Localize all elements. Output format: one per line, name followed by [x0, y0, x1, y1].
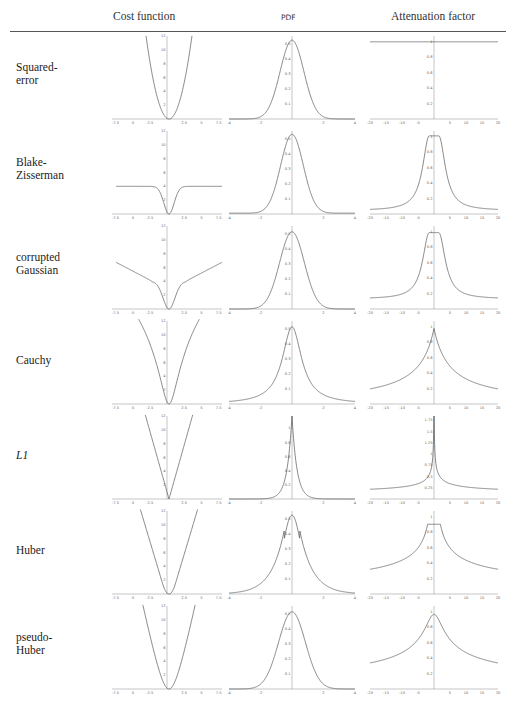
y-tick-label: 0.3 — [285, 167, 291, 171]
x-tick-label: 5 — [200, 596, 202, 600]
x-tick-label: -2 — [259, 216, 263, 220]
y-tick-label: 12 — [161, 414, 166, 418]
x-tick-label: 7.5 — [216, 596, 222, 600]
y-tick-label: 1 — [430, 452, 432, 456]
y-tick-label: 6 — [163, 551, 166, 555]
y-tick-label: 0.2 — [285, 277, 291, 281]
x-tick-label: 7.5 — [216, 406, 222, 410]
y-tick-label: 0.6 — [285, 455, 291, 459]
cost-curve — [146, 36, 192, 119]
x-tick-label: 2 — [322, 501, 324, 505]
cost-curve — [140, 509, 197, 594]
y-tick-label: 0.4 — [427, 656, 433, 660]
cost-function-plot: -7.5-5-2.52.557.524681012 — [108, 33, 228, 128]
x-tick-label: -20 — [367, 596, 374, 600]
row-label: Huber — [16, 544, 45, 557]
x-tick-label: 7.5 — [216, 691, 222, 695]
x-tick-label: -5 — [131, 406, 135, 410]
row-label-line1: Squared- — [16, 61, 58, 74]
x-tick-label: -10 — [399, 311, 406, 315]
pdf-plot: -4-2240.10.20.30.40.5 — [224, 508, 359, 603]
y-tick-label: 0.4 — [427, 86, 433, 90]
y-tick-label: 10 — [161, 238, 166, 242]
y-tick-label: 8 — [163, 62, 166, 66]
x-tick-label: -7.5 — [112, 121, 119, 125]
x-tick-label: 10 — [464, 121, 469, 125]
y-tick-label: 0.1 — [285, 102, 291, 106]
x-tick-label: -5 — [416, 501, 420, 505]
y-tick-label: 4 — [163, 659, 166, 663]
y-tick-label: 8 — [163, 347, 166, 351]
x-tick-label: -5 — [416, 311, 420, 315]
header-rule — [10, 31, 506, 32]
x-tick-label: -5 — [416, 406, 420, 410]
cost-function-plot: -7.5-5-2.52.557.524681012 — [108, 223, 228, 318]
row-label-line1: pseudo- — [16, 631, 52, 644]
y-tick-label: 0.2 — [427, 387, 433, 391]
row-label: Blake-Zisserman — [16, 156, 64, 182]
x-tick-label: 4 — [354, 216, 357, 220]
x-tick-label: -15 — [383, 311, 389, 315]
x-tick-label: -2 — [259, 311, 263, 315]
y-tick-label: 1.75 — [424, 418, 432, 422]
y-tick-label: 0.2 — [285, 87, 291, 91]
y-tick-label: 4 — [163, 89, 166, 93]
y-tick-label: 0.3 — [285, 72, 291, 76]
y-tick-label: 10 — [161, 333, 166, 337]
y-tick-label: 0.4 — [427, 371, 433, 375]
pdf-plot: -4-2240.10.20.30.40.5 — [224, 318, 359, 413]
y-tick-label: 8 — [163, 157, 166, 161]
x-tick-label: -5 — [131, 121, 135, 125]
y-tick-label: 0.2 — [427, 102, 433, 106]
x-tick-label: -7.5 — [112, 691, 119, 695]
x-tick-label: 2.5 — [181, 216, 187, 220]
y-tick-label: 6 — [163, 171, 166, 175]
x-tick-label: 2 — [322, 121, 324, 125]
y-tick-label: 0.1 — [285, 292, 291, 296]
x-tick-label: 4 — [354, 121, 357, 125]
x-tick-label: -2.5 — [146, 406, 153, 410]
x-tick-label: 2 — [322, 406, 324, 410]
row-label: corruptedGaussian — [16, 251, 60, 277]
x-tick-label: -4 — [227, 691, 231, 695]
y-tick-label: 0.1 — [285, 672, 291, 676]
row-label: Cauchy — [16, 354, 51, 367]
y-tick-label: 0.6 — [427, 356, 433, 360]
x-tick-label: -5 — [131, 691, 135, 695]
x-tick-label: -10 — [399, 691, 406, 695]
x-tick-label: 5 — [449, 596, 451, 600]
x-tick-label: -2 — [259, 691, 263, 695]
x-tick-label: -7.5 — [112, 216, 119, 220]
x-tick-label: 10 — [464, 406, 469, 410]
attenuation-plot: -20-15-10-551015200.250.50.7511.251.51.7… — [364, 413, 504, 508]
x-tick-label: -4 — [227, 501, 231, 505]
x-tick-label: -5 — [131, 216, 135, 220]
y-tick-label: 0.8 — [427, 625, 433, 629]
y-tick-label: 1 — [430, 610, 432, 614]
y-tick-label: 6 — [163, 266, 166, 270]
row-label: pseudo-Huber — [16, 631, 52, 657]
x-tick-label: -20 — [367, 501, 374, 505]
y-tick-label: 0.25 — [424, 486, 432, 490]
y-tick-label: 0.2 — [427, 672, 433, 676]
x-tick-label: -2.5 — [146, 501, 153, 505]
x-tick-label: 2.5 — [181, 121, 187, 125]
y-tick-label: 8 — [163, 537, 166, 541]
x-tick-label: 15 — [480, 596, 485, 600]
x-tick-label: 2 — [322, 311, 324, 315]
attenuation-plot: -20-15-10-551015200.20.40.60.81 — [364, 128, 504, 223]
y-tick-label: 0.1 — [285, 197, 291, 201]
x-tick-label: -15 — [383, 501, 389, 505]
x-tick-label: -2.5 — [146, 691, 153, 695]
x-tick-label: 5 — [449, 501, 451, 505]
y-tick-label: 1 — [430, 135, 432, 139]
y-tick-label: 0.6 — [427, 641, 433, 645]
y-tick-label: 0.4 — [285, 152, 291, 156]
cost-curve — [116, 186, 222, 214]
y-tick-label: 4 — [163, 279, 166, 283]
x-tick-label: 15 — [480, 406, 485, 410]
y-tick-label: 6 — [163, 361, 166, 365]
x-tick-label: 5 — [200, 121, 202, 125]
y-tick-label: 8 — [163, 632, 166, 636]
x-tick-label: 20 — [496, 406, 501, 410]
